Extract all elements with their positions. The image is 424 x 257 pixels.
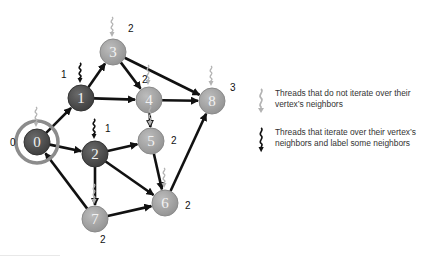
node-label: 8 — [208, 93, 216, 109]
light-thread-icon — [34, 107, 39, 127]
edge-1-3 — [88, 63, 105, 87]
edge-2-5 — [108, 144, 138, 151]
edge-3-4 — [121, 62, 141, 88]
divider — [0, 255, 60, 256]
node-label: 6 — [161, 195, 169, 211]
node-4: 4 — [136, 87, 162, 113]
edge-7-6 — [108, 206, 152, 216]
node-label: 0 — [33, 134, 41, 150]
level-label-5: 2 — [171, 135, 177, 146]
edge-5-6 — [154, 154, 162, 190]
edges-layer — [45, 58, 206, 216]
node-label: 4 — [145, 92, 153, 108]
node-label: 1 — [77, 90, 85, 106]
light-thread-icon — [255, 88, 269, 114]
level-label-7: 2 — [100, 234, 106, 245]
edge-2-6 — [106, 161, 154, 195]
light-thread-icon — [209, 66, 214, 86]
level-label-6: 2 — [185, 200, 191, 211]
level-label-3: 2 — [128, 23, 134, 34]
level-label-1: 1 — [61, 69, 67, 80]
edge-7-0 — [45, 153, 87, 208]
level-label-2: 1 — [105, 123, 111, 134]
level-label-0: 0 — [10, 137, 16, 148]
node-0: 0 — [24, 129, 50, 155]
node-label: 2 — [91, 146, 99, 162]
node-label: 5 — [147, 133, 155, 149]
legend-text-dark-thread: Threads that iterate over their vertex’s… — [275, 127, 424, 149]
level-label-8: 3 — [230, 82, 236, 93]
edge-6-8 — [170, 114, 206, 191]
edge-4-8 — [162, 100, 198, 101]
node-label: 7 — [91, 211, 99, 227]
edge-3-8 — [125, 58, 200, 95]
node-1: 1 — [68, 85, 94, 111]
node-5: 5 — [138, 128, 164, 154]
node-label: 3 — [109, 44, 117, 60]
dark-thread-icon — [92, 119, 97, 139]
dark-thread-icon — [255, 127, 269, 153]
node-3: 3 — [100, 39, 126, 65]
edge-0-1 — [46, 108, 71, 133]
node-2: 2 — [82, 141, 108, 167]
node-8: 8 — [199, 88, 225, 114]
edge-1-4 — [94, 98, 135, 99]
node-6: 6 — [152, 190, 178, 216]
level-label-4: 2 — [142, 74, 148, 85]
light-thread-icon — [110, 17, 115, 37]
dark-thread-icon — [78, 63, 83, 83]
legend-text-light-thread: Threads that do not iterate over their v… — [275, 88, 424, 110]
node-7: 7 — [82, 206, 108, 232]
